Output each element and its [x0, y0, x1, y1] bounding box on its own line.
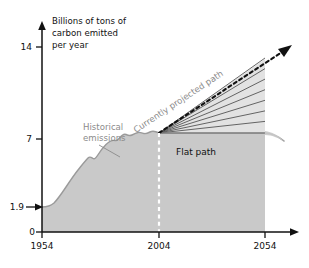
x-tick-label-1954: 1954 [31, 241, 54, 251]
emissions-wedge-chart: 14 7 1.9 0 1954 2004 2054 Billions of to… [0, 0, 309, 268]
flat-path-label: Flat path [176, 147, 216, 157]
y-tick-label-7: 7 [26, 134, 32, 144]
flat-path-tail-fill [265, 131, 284, 141]
historical-emissions-label-line-1: Historical [83, 122, 123, 132]
y-axis-title-line-1: Billions of tons of [52, 16, 127, 26]
x-tick-label-2004: 2004 [148, 241, 171, 251]
y-tick-label-14: 14 [21, 42, 33, 52]
y-axis-title-line-2: carbon emitted [52, 28, 118, 38]
currently-projected-path-arrowhead [278, 45, 292, 57]
y-tick-label-1point9: 1.9 [10, 202, 25, 212]
historical-emissions-label-line-2: emissions [83, 133, 126, 143]
y-axis-arrowhead [38, 21, 46, 30]
y-axis-title-line-3: per year [52, 40, 89, 50]
x-tick-label-2054: 2054 [254, 241, 277, 251]
y-tick-label-0: 0 [29, 227, 35, 237]
x-axis-arrowhead [290, 228, 299, 236]
chart-figure: 14 7 1.9 0 1954 2004 2054 Billions of to… [0, 0, 309, 268]
